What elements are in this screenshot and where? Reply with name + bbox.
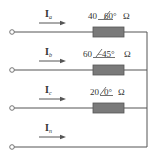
impedance-c-magnitude: 20 xyxy=(90,87,100,97)
terminal-a xyxy=(10,30,15,35)
branch-b: I b 60 −45° Ω xyxy=(10,46,147,75)
arrow-head-icon xyxy=(60,59,66,63)
arrow-head-icon xyxy=(60,135,66,139)
impedance-c-unit: Ω xyxy=(118,87,125,97)
impedance-b xyxy=(93,65,124,75)
terminal-b xyxy=(10,68,15,73)
arrow-head-icon xyxy=(60,97,66,101)
current-c-sub: c xyxy=(49,90,52,96)
impedance-a-unit: Ω xyxy=(123,11,130,21)
impedance-b-unit: Ω xyxy=(124,49,131,59)
terminal-n xyxy=(10,145,15,150)
impedance-b-magnitude: 60 xyxy=(83,49,93,59)
impedance-c xyxy=(93,103,124,113)
current-b-sub: b xyxy=(49,52,52,58)
impedance-c-angle: 0° xyxy=(104,87,113,97)
impedance-a-angle: 60° xyxy=(104,11,117,21)
impedance-a-magnitude: 40 xyxy=(88,11,98,21)
current-a-sub: a xyxy=(49,14,52,20)
impedance-b-angle: −45° xyxy=(97,49,115,59)
branch-a: I a 40 60° Ω xyxy=(10,8,147,37)
arrow-head-icon xyxy=(60,21,66,25)
terminal-c xyxy=(10,106,15,111)
impedance-a xyxy=(93,27,124,37)
branch-c: I c 20 0° Ω xyxy=(10,84,147,113)
branch-n: I n xyxy=(10,122,147,149)
current-n-sub: n xyxy=(49,128,52,134)
circuit-diagram: I a 40 60° Ω I b 60 −45° Ω I c 20 xyxy=(0,0,156,156)
